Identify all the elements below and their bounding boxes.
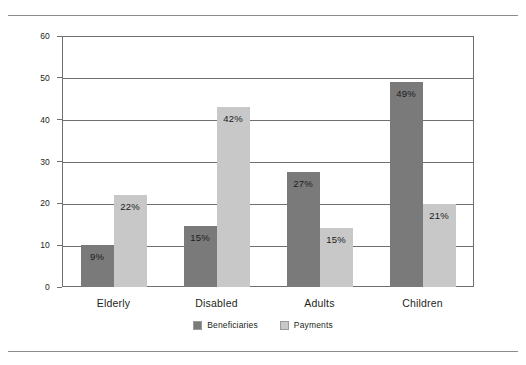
- y-tick-label-40: 40: [28, 115, 50, 125]
- x-axis-label-elderly: Elderly: [64, 297, 164, 309]
- bottom-divider: [8, 351, 518, 352]
- bar-group-elderly: 9%22%: [81, 36, 147, 287]
- x-axis-label-adults: Adults: [270, 297, 370, 309]
- bar-value-label: 22%: [120, 201, 140, 287]
- bar-beneficiaries-children[interactable]: 49%: [390, 82, 423, 287]
- bar-payments-adults[interactable]: 15%: [320, 228, 353, 287]
- bar-payments-elderly[interactable]: 22%: [114, 195, 147, 287]
- bar-value-label: 15%: [326, 234, 346, 287]
- bar-value-label: 21%: [429, 210, 449, 287]
- legend-label: Beneficiaries: [207, 320, 258, 330]
- bar-group-adults: 27%15%: [287, 36, 353, 287]
- bar-value-label: 9%: [90, 251, 104, 287]
- chart-legend: BeneficiariesPayments: [0, 320, 526, 330]
- y-tick-label-10: 10: [28, 240, 50, 250]
- bar-value-label: 27%: [293, 178, 313, 287]
- bars-layer: 9%22%15%42%27%15%49%21%: [62, 36, 474, 287]
- y-tick-label-50: 50: [28, 73, 50, 83]
- legend-item-payments[interactable]: Payments: [280, 320, 333, 330]
- bar-payments-disabled[interactable]: 42%: [217, 107, 250, 287]
- x-axis-label-children: Children: [373, 297, 473, 309]
- legend-item-beneficiaries[interactable]: Beneficiaries: [193, 320, 258, 330]
- legend-swatch-icon: [193, 321, 202, 330]
- bar-beneficiaries-disabled[interactable]: 15%: [184, 226, 217, 287]
- x-axis-label-disabled: Disabled: [167, 297, 267, 309]
- bar-value-label: 15%: [190, 232, 210, 287]
- legend-swatch-icon: [280, 321, 289, 330]
- bar-beneficiaries-elderly[interactable]: 9%: [81, 245, 114, 287]
- bar-value-label: 42%: [223, 113, 243, 287]
- y-tick-label-20: 20: [28, 198, 50, 208]
- y-tick-label-60: 60: [28, 31, 50, 41]
- legend-label: Payments: [294, 320, 333, 330]
- bar-value-label: 49%: [396, 88, 416, 287]
- y-tick-label-30: 30: [28, 157, 50, 167]
- y-tick-label-0: 0: [28, 282, 50, 292]
- bar-payments-children[interactable]: 21%: [423, 204, 456, 287]
- top-divider: [8, 15, 518, 16]
- bar-group-disabled: 15%42%: [184, 36, 250, 287]
- bar-group-children: 49%21%: [390, 36, 456, 287]
- bar-beneficiaries-adults[interactable]: 27%: [287, 172, 320, 287]
